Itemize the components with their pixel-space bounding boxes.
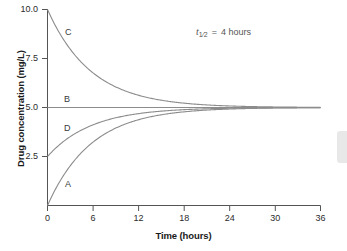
curve-label-b: B [64, 94, 70, 104]
half-life-subscript: 1⁄2 [199, 31, 208, 38]
y-tick-label-10: 10.0 [4, 4, 38, 14]
x-tick-label-18: 18 [169, 213, 199, 223]
y-tick-label-7-5: 7.5 [4, 53, 38, 63]
curve-label-d: D [64, 123, 71, 133]
x-tick-label-6: 6 [78, 213, 108, 223]
x-tick-label-30: 30 [260, 213, 290, 223]
x-tick-label-36: 36 [306, 213, 336, 223]
x-tick-label-12: 12 [124, 213, 154, 223]
y-axis-ticks [42, 10, 48, 157]
x-tick-label-0: 0 [33, 213, 63, 223]
curve-label-a: A [65, 179, 71, 189]
half-life-value: 4 hours [221, 27, 251, 37]
curve-d-path [48, 108, 321, 157]
x-axis-title: Time (hours) [47, 230, 320, 241]
curve-a-path [48, 108, 321, 206]
pharmacokinetics-chart-figure: Drug concentration (mg/L) Time (hours) 1… [0, 0, 347, 251]
curve-label-c: C [65, 27, 72, 37]
half-life-equals: = [208, 27, 221, 37]
x-tick-label-24: 24 [215, 213, 245, 223]
half-life-annotation: t1⁄2=4 hours [196, 26, 251, 38]
y-tick-label-2-5: 2.5 [4, 151, 38, 161]
curve-c-path [48, 10, 321, 108]
page-edge-artifact [337, 131, 347, 163]
x-axis-ticks [48, 206, 321, 212]
y-tick-label-5: 5.0 [4, 102, 38, 112]
